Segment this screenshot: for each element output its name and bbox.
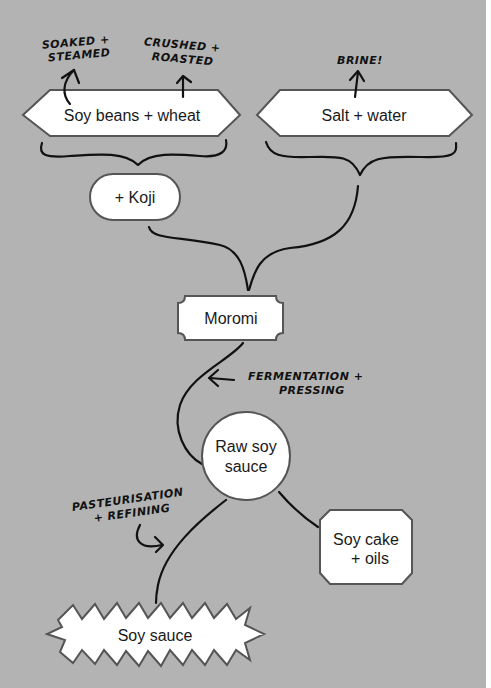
annotation-soaked-steamed: SOAKED + STEAMED xyxy=(41,33,111,65)
node-soy-beans-wheat-label: Soy beans + wheat xyxy=(64,107,201,124)
node-soy-cake-oils: Soy cake + oils xyxy=(320,510,412,584)
svg-text:PRESSING: PRESSING xyxy=(279,384,345,397)
node-raw-soy-sauce-label-1: Raw soy xyxy=(215,438,276,455)
connector-raw-to-soy-cake xyxy=(279,492,318,527)
node-soy-cake-label-1: Soy cake xyxy=(333,531,399,548)
node-salt-water-label: Salt + water xyxy=(322,107,408,124)
node-soy-cake-label-2: + oils xyxy=(351,550,389,567)
annotation-brine: BRINE! xyxy=(337,54,383,67)
node-raw-soy-sauce: Raw soy sauce xyxy=(202,412,290,500)
diagram-canvas: Soy beans + wheat Salt + water SOAKED + … xyxy=(0,0,486,688)
arrowhead-icon xyxy=(62,70,79,83)
node-soy-beans-wheat: Soy beans + wheat xyxy=(23,90,240,136)
brace-left xyxy=(41,140,226,165)
flow-diagram: Soy beans + wheat Salt + water SOAKED + … xyxy=(0,0,486,688)
connector-brine-to-moromi xyxy=(249,186,358,290)
brace-right xyxy=(266,142,456,175)
curved-arrow-icon xyxy=(137,525,162,546)
node-soy-sauce: Soy sauce xyxy=(47,603,264,666)
svg-text:FERMENTATION +: FERMENTATION + xyxy=(248,370,363,383)
node-soy-sauce-label: Soy sauce xyxy=(118,627,193,644)
node-moromi-label: Moromi xyxy=(204,310,257,327)
annotation-fermentation-pressing: FERMENTATION + PRESSING xyxy=(248,370,363,397)
annotation-pasteurisation-refining: PASTEURISATION + REFINING xyxy=(71,485,186,527)
node-raw-soy-sauce-label-2: sauce xyxy=(225,458,268,475)
annotation-crushed-roasted: CRUSHED + ROASTED xyxy=(142,35,221,69)
arrow-left-icon xyxy=(210,378,234,380)
node-koji: + Koji xyxy=(90,174,180,220)
connector-koji-to-moromi xyxy=(149,227,248,290)
connector-raw-to-soy-sauce xyxy=(156,500,226,603)
node-koji-label: + Koji xyxy=(115,189,155,206)
node-moromi: Moromi xyxy=(178,296,283,340)
svg-text:BRINE!: BRINE! xyxy=(337,54,383,67)
node-salt-water: Salt + water xyxy=(257,90,472,136)
